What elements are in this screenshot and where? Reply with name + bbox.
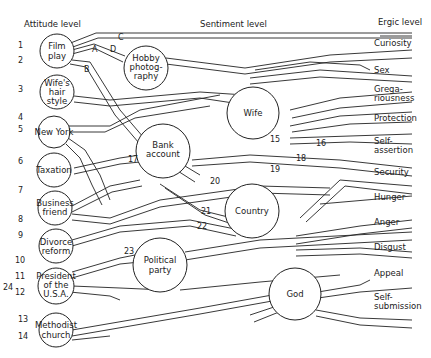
erg-anger: Anger bbox=[374, 217, 400, 227]
attitude-number: 6 bbox=[18, 157, 23, 166]
attitude-node-methodist: Methodist church bbox=[35, 313, 78, 347]
svg-text:party: party bbox=[149, 265, 171, 275]
svg-text:Film: Film bbox=[48, 41, 65, 51]
attitude-node-business-friend: Business friend bbox=[36, 191, 74, 225]
attitude-number: 12 bbox=[15, 288, 25, 297]
svg-text:B: B bbox=[84, 65, 90, 74]
svg-text:15: 15 bbox=[270, 135, 280, 144]
svg-text:Wife: Wife bbox=[244, 108, 263, 118]
svg-text:church: church bbox=[42, 330, 71, 340]
svg-text:Taxation: Taxation bbox=[35, 165, 72, 175]
attitude-number: 1 bbox=[18, 41, 23, 50]
attitude-number: 7 bbox=[18, 186, 23, 195]
ergic-level-header: Ergic level bbox=[378, 17, 422, 27]
svg-text:23: 23 bbox=[124, 247, 134, 256]
erg-self-assertion-2: assertion bbox=[374, 145, 413, 155]
svg-text:D: D bbox=[110, 45, 116, 54]
erg-gregariousness-2: riousness bbox=[374, 93, 415, 103]
svg-text:A: A bbox=[92, 45, 98, 54]
svg-text:New York: New York bbox=[35, 127, 74, 137]
svg-text:account: account bbox=[146, 149, 181, 159]
attitude-node-film: Film play bbox=[40, 34, 74, 68]
attitude-node-taxation: Taxation bbox=[35, 153, 72, 187]
svg-text:raphy: raphy bbox=[134, 71, 159, 81]
sentiment-node-hobby: Hobby photog- raphy bbox=[124, 46, 168, 90]
attitude-number: 2 bbox=[18, 56, 23, 65]
attitude-number: 8 bbox=[18, 215, 23, 224]
attitude-number: 5 bbox=[18, 125, 23, 134]
erg-self-submission-2: submission bbox=[374, 301, 422, 311]
erg-sex: Sex bbox=[374, 65, 390, 75]
attitude-number: 10 bbox=[15, 256, 25, 265]
erg-disgust: Disgust bbox=[374, 242, 407, 252]
attitude-level-header: Attitude level bbox=[24, 19, 81, 29]
connection-paths bbox=[66, 33, 412, 340]
svg-text:22: 22 bbox=[197, 222, 207, 231]
svg-text:Methodist: Methodist bbox=[35, 320, 78, 330]
erg-security: Security bbox=[374, 167, 409, 177]
sentiment-node-political-party: Political party bbox=[133, 238, 187, 292]
svg-text:20: 20 bbox=[210, 177, 220, 186]
ergic-labels: Curiosity Sex Grega- riousness Protectio… bbox=[374, 38, 422, 311]
attitude-number: 3 bbox=[18, 85, 23, 94]
attitude-number: 14 bbox=[18, 332, 28, 341]
attitude-node-divorce-reform: Divorce reform bbox=[39, 229, 73, 263]
path-labels: C A D B 15 16 17 18 19 20 21 22 23 bbox=[84, 33, 326, 256]
svg-text:play: play bbox=[48, 51, 66, 61]
erg-curiosity: Curiosity bbox=[374, 38, 412, 48]
attitude-number: 4 bbox=[18, 113, 23, 122]
sentiment-node-god: God bbox=[269, 268, 321, 320]
attitude-node-wife-hair: Wife's hair style bbox=[40, 75, 74, 109]
attitude-number: 9 bbox=[18, 231, 23, 240]
erg-appeal: Appeal bbox=[374, 268, 403, 278]
sentiment-node-bank-account: Bank account bbox=[136, 124, 190, 178]
attitude-node-president: President of the U.S.A. bbox=[36, 268, 76, 304]
attitude-number: 11 bbox=[15, 272, 25, 281]
svg-text:18: 18 bbox=[296, 154, 306, 163]
svg-text:God: God bbox=[286, 289, 303, 299]
attitude-node-new-york: New York bbox=[35, 116, 74, 148]
svg-text:Political: Political bbox=[144, 255, 177, 265]
svg-text:Country: Country bbox=[235, 206, 269, 216]
svg-text:reform: reform bbox=[42, 246, 70, 256]
sentiment-node-wife: Wife bbox=[227, 87, 279, 139]
svg-text:C: C bbox=[118, 33, 124, 42]
erg-hunger: Hunger bbox=[374, 192, 406, 202]
lattice-svg: Attitude level Sentiment level Ergic lev… bbox=[0, 0, 431, 358]
dynamic-lattice-diagram: Attitude level Sentiment level Ergic lev… bbox=[0, 0, 431, 358]
svg-text:21: 21 bbox=[201, 207, 211, 216]
svg-text:17: 17 bbox=[128, 155, 138, 164]
sentiment-node-country: Country bbox=[225, 184, 279, 238]
attitude-number: 13 bbox=[18, 315, 28, 324]
attitude-number: 24 bbox=[3, 283, 13, 292]
svg-text:friend: friend bbox=[43, 207, 68, 217]
svg-text:U.S.A.: U.S.A. bbox=[43, 289, 68, 299]
svg-text:19: 19 bbox=[270, 165, 280, 174]
svg-text:16: 16 bbox=[316, 139, 326, 148]
svg-text:style: style bbox=[47, 96, 67, 106]
erg-protection: Protection bbox=[374, 113, 417, 123]
sentiment-level-header: Sentiment level bbox=[200, 19, 267, 29]
